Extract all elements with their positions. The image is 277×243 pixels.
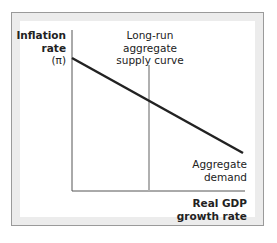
y-axis-label-line1: Inflation [16, 29, 66, 42]
ad-label-line2: demand [192, 171, 247, 184]
y-axis-label: Inflation rate (π) [16, 29, 66, 67]
ad-label-line1: Aggregate [192, 158, 247, 171]
x-axis-label-line1: Real GDP [177, 197, 247, 210]
ad-label: Aggregate demand [192, 158, 247, 183]
x-axis-label-line2: growth rate [177, 210, 247, 223]
lras-label-line1: Long-run [110, 29, 190, 42]
lras-label-line2: aggregate [110, 42, 190, 55]
y-axis-label-line3: (π) [16, 54, 66, 67]
lras-label-line3: supply curve [110, 54, 190, 67]
aggregate-demand-curve [72, 58, 243, 153]
x-axis-label: Real GDP growth rate [177, 197, 247, 222]
y-axis-label-line2: rate [16, 42, 66, 55]
lras-label: Long-run aggregate supply curve [110, 29, 190, 67]
